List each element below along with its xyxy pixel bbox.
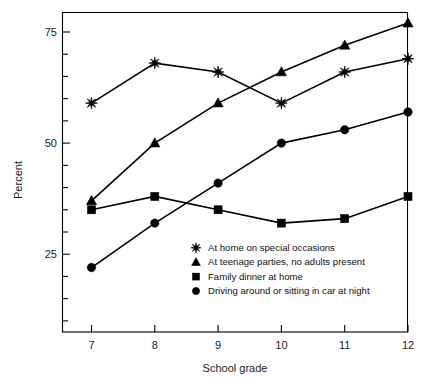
legend-square-marker <box>193 273 200 280</box>
legend-circle-marker <box>192 287 199 294</box>
data-point-circle-marker <box>87 263 95 271</box>
data-point-square-marker <box>277 219 285 227</box>
y-axis-tick-label: 50 <box>45 137 57 149</box>
chart-figure: 255075 789101112 At home on special occa… <box>0 0 422 380</box>
data-point-star-marker <box>149 57 161 69</box>
data-point-square-marker <box>214 206 222 214</box>
legend-item: Family dinner at home <box>193 271 303 282</box>
legend-star-marker <box>191 243 201 253</box>
x-axis-tick-label: 12 <box>402 339 414 351</box>
data-point-square-marker <box>404 192 412 200</box>
data-point-circle-marker <box>340 126 348 134</box>
legend-label: At home on special occasions <box>208 242 335 253</box>
data-point-circle-marker <box>277 139 285 147</box>
data-point-star-marker <box>339 66 351 78</box>
data-point-star-marker <box>85 97 97 109</box>
data-point-square-marker <box>87 206 95 214</box>
legend-label: Driving around or sitting in car at nigh… <box>208 285 370 296</box>
data-point-star-marker <box>275 97 287 109</box>
x-axis-tick-label: 9 <box>215 339 221 351</box>
data-point-star-marker <box>212 66 224 78</box>
x-axis-tick-label: 11 <box>339 339 350 351</box>
y-axis-tick-label: 25 <box>45 248 57 260</box>
x-axis-tick-label: 7 <box>88 339 94 351</box>
line-chart: 255075 789101112 At home on special occa… <box>0 0 422 380</box>
legend-item: Driving around or sitting in car at nigh… <box>192 285 370 296</box>
legend-item: At home on special occasions <box>191 242 335 253</box>
y-axis-title: Percent <box>12 161 24 199</box>
legend-label: At teenage parties, no adults present <box>208 256 365 267</box>
data-point-square-marker <box>151 192 159 200</box>
x-axis-tick-label: 10 <box>275 339 287 351</box>
data-point-circle-marker <box>151 219 159 227</box>
legend-item: At teenage parties, no adults present <box>192 256 366 267</box>
data-point-square-marker <box>341 215 349 223</box>
data-point-circle-marker <box>404 108 412 116</box>
legend-label: Family dinner at home <box>208 271 303 282</box>
x-axis-tick-label: 8 <box>152 339 158 351</box>
x-axis-title: School grade <box>203 362 268 374</box>
data-point-circle-marker <box>214 179 222 187</box>
data-point-star-marker <box>402 53 414 65</box>
y-axis-tick-label: 75 <box>45 26 57 38</box>
chart-background <box>0 0 422 380</box>
